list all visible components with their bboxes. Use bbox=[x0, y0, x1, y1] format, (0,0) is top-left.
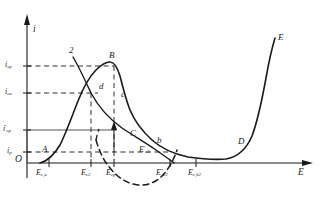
x-tick-sub: c2 bbox=[86, 172, 91, 177]
y-tick-sub: cp bbox=[6, 128, 11, 133]
y-tick-sub: ca bbox=[7, 91, 12, 96]
x-tick-sub: c,a bbox=[41, 172, 47, 177]
y-tick-sub: cp bbox=[7, 64, 12, 69]
point-label-c: c bbox=[121, 90, 125, 99]
peak-height-arrow bbox=[111, 121, 117, 152]
y-tick-label-i-cp-prime: i'cp bbox=[3, 125, 11, 133]
x-tick-sub: c,k2 bbox=[193, 172, 201, 177]
x-tick-label-E-cp: Ecp bbox=[106, 169, 116, 177]
dashed-lobe-riser bbox=[96, 129, 99, 140]
y-axis-label: i bbox=[33, 25, 36, 35]
point-label-C: C bbox=[130, 129, 136, 138]
y-tick-label-i-ca: ica bbox=[5, 88, 12, 96]
y-axis-arrowhead bbox=[24, 14, 30, 25]
origin-label: O bbox=[15, 155, 22, 165]
y-tick-label-i-p: ip bbox=[7, 147, 12, 155]
point-label-d: d bbox=[99, 82, 104, 91]
x-axis-arrowhead bbox=[302, 160, 313, 166]
point-label-D: D bbox=[238, 137, 245, 146]
curve-2-descending bbox=[73, 57, 174, 163]
x-tick-sub: c2 bbox=[163, 172, 168, 177]
x-tick-label-E-c2-double-prime: E''c2 bbox=[156, 169, 168, 177]
x-tick-label-E-c2: Ec2 bbox=[81, 169, 91, 177]
current-potential-figure: i E O icp ica i'cp ip Ec,a Ec2 Ecp E''c2… bbox=[0, 0, 324, 199]
curve-label-2: 2 bbox=[69, 46, 74, 55]
inline-label-E-c2-prime: E'c2 bbox=[139, 146, 150, 154]
point-label-E-curve: E bbox=[278, 33, 284, 42]
y-tick-label-i-cp: icp bbox=[5, 61, 12, 69]
inline-sub: c2 bbox=[145, 149, 150, 154]
x-axis-label: E bbox=[298, 168, 304, 178]
x-tick-label-E-ck2: Ec,k2 bbox=[188, 169, 201, 177]
x-tick-sub: cp bbox=[111, 172, 116, 177]
point-label-A: A bbox=[42, 145, 48, 154]
horizontal-guides bbox=[27, 66, 168, 152]
point-label-B: B bbox=[109, 51, 115, 60]
axis-group bbox=[24, 14, 313, 178]
point-label-b: b bbox=[157, 136, 162, 145]
y-tick-sub: p bbox=[9, 150, 11, 155]
x-tick-label-E-ca: Ec,a bbox=[36, 169, 47, 177]
